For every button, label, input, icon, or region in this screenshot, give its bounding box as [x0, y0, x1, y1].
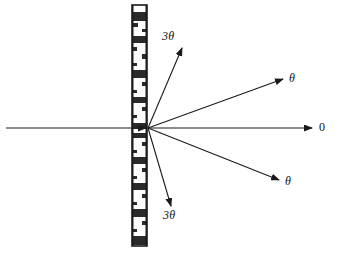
grating-stripe: [133, 202, 137, 205]
ray-order-plus3: [148, 48, 182, 128]
diffraction-grating: [132, 5, 147, 246]
grating-stripe: [133, 23, 138, 27]
grating-stripe: [133, 150, 137, 153]
grating-stripe: [133, 236, 147, 245]
grating-stripe: [133, 70, 147, 78]
grating-stripe: [133, 133, 147, 138]
grating-stripe: [133, 12, 147, 21]
grating-stripe: [133, 229, 137, 232]
ray-bundle: [6, 48, 312, 206]
grating-stripe: [133, 157, 147, 164]
grating-stripe: [133, 115, 137, 118]
ray-order-plus1: [148, 79, 283, 128]
grating-stripe: [133, 36, 147, 43]
ray-order-minus3-label: 3θ: [163, 209, 175, 221]
ray-order-minus3: [148, 128, 171, 206]
grating-stripe: [133, 176, 137, 179]
ray-order-zero-label: 0: [319, 121, 325, 133]
grating-stripe: [133, 183, 147, 190]
diffraction-grating-figure: 3θθ0θ3θ: [0, 0, 337, 253]
grating-stripe: [133, 47, 137, 51]
grating-stripe: [133, 90, 137, 93]
grating-stripe: [133, 97, 147, 103]
ray-order-plus3-label: 3θ: [162, 30, 174, 42]
grating-stripe: [133, 209, 147, 217]
ray-order-minus1-label: θ: [285, 175, 291, 187]
ray-order-plus1-label: θ: [289, 72, 295, 84]
ray-order-minus1: [148, 128, 279, 180]
grating-stripe: [133, 63, 137, 66]
